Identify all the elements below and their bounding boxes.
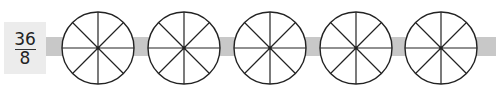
fraction-circles-diagram — [0, 0, 496, 96]
circle-2 — [148, 12, 220, 84]
circle-4 — [320, 12, 392, 84]
circle-3 — [234, 12, 306, 84]
circles-group — [62, 12, 477, 84]
circle-5 — [405, 12, 477, 84]
circle-1 — [62, 12, 134, 84]
